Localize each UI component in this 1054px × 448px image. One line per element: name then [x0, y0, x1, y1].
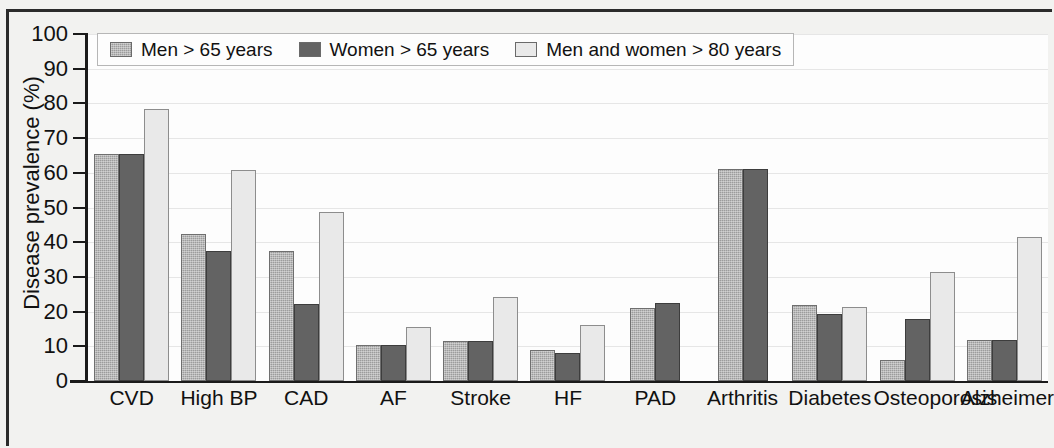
bar-group: [612, 34, 699, 381]
legend-item: Men > 65 years: [110, 40, 273, 59]
x-axis-tick-label: CVD: [88, 386, 175, 409]
y-axis-tick-label: 80: [24, 92, 68, 114]
y-axis-tick: [73, 276, 86, 278]
y-axis-tick-label: 60: [24, 162, 68, 184]
x-axis-tick-label: AF: [350, 386, 437, 409]
x-axis-tick-label: HF: [524, 386, 611, 409]
bar-group: [88, 34, 175, 381]
bar: [743, 169, 768, 381]
bar: [555, 353, 580, 381]
bar: [992, 340, 1017, 381]
x-axis-tick-label: High BP: [175, 386, 262, 409]
legend-label: Women > 65 years: [330, 40, 490, 59]
bar: [493, 297, 518, 381]
y-axis-tick: [73, 380, 86, 382]
legend-label: Men > 65 years: [141, 40, 273, 59]
y-axis-tick-labels: 1009080706050403020100: [18, 0, 68, 448]
bar: [319, 212, 344, 381]
y-axis-tick-label: 30: [24, 266, 68, 288]
x-axis-tick-label: CAD: [263, 386, 350, 409]
bar-group: [437, 34, 524, 381]
y-axis-tick: [73, 345, 86, 347]
bar: [905, 319, 930, 381]
x-axis-tick-label: Osteoporosis: [873, 386, 960, 409]
x-axis-tick-label: Alzheimer's: [961, 386, 1048, 409]
y-axis-tick-label: 100: [24, 23, 68, 45]
legend-item: Women > 65 years: [299, 40, 490, 59]
bar: [119, 154, 144, 381]
y-axis-tick-label: 50: [24, 197, 68, 219]
y-axis-tick-label: 20: [24, 301, 68, 323]
bar: [655, 303, 680, 381]
bar: [718, 169, 743, 381]
y-axis-tick-label: 10: [24, 335, 68, 357]
bar-group: [961, 34, 1048, 381]
y-axis-tick: [73, 102, 86, 104]
plot-area: [88, 34, 1048, 381]
legend-swatch-icon: [110, 42, 132, 57]
x-axis-tick-label: Diabetes: [786, 386, 873, 409]
y-axis-tick-label: 0: [24, 370, 68, 392]
y-axis-tick: [73, 172, 86, 174]
x-axis-tick-label: Arthritis: [699, 386, 786, 409]
bar: [967, 340, 992, 381]
y-axis-tick: [73, 68, 86, 70]
y-axis-tick-label: 70: [24, 127, 68, 149]
bar: [94, 154, 119, 381]
bar: [206, 251, 231, 381]
bar: [443, 341, 468, 381]
bar: [144, 109, 169, 381]
bar: [231, 170, 256, 381]
bar-group: [524, 34, 611, 381]
y-axis-tick-label: 90: [24, 58, 68, 80]
x-axis-tick-label: Stroke: [437, 386, 524, 409]
y-axis-tick: [73, 137, 86, 139]
bar-group: [350, 34, 437, 381]
bar: [406, 327, 431, 381]
bar-group: [873, 34, 960, 381]
y-axis-tick: [73, 33, 86, 35]
bar: [381, 345, 406, 381]
bar-group: [699, 34, 786, 381]
legend-swatch-icon: [515, 42, 537, 57]
x-axis-tick-label: PAD: [612, 386, 699, 409]
bar: [1017, 237, 1042, 381]
y-axis-tick: [73, 241, 86, 243]
y-axis-tick-label: 40: [24, 231, 68, 253]
chart-figure: Disease prevalence (%) 10090807060504030…: [0, 0, 1054, 448]
bar: [842, 307, 867, 381]
legend-label: Men and women > 80 years: [546, 40, 781, 59]
bar: [269, 251, 294, 381]
bar: [294, 304, 319, 381]
bar: [530, 350, 555, 381]
y-axis-tick: [73, 207, 86, 209]
bar-group: [786, 34, 873, 381]
bar: [930, 272, 955, 381]
bar: [792, 305, 817, 381]
bar: [880, 360, 905, 381]
x-axis-tick-labels: CVDHigh BPCADAFStrokeHFPADArthritisDiabe…: [88, 386, 1048, 420]
legend-item: Men and women > 80 years: [515, 40, 781, 59]
figure-frame-top-border: [6, 9, 1052, 12]
bar: [356, 345, 381, 381]
legend-swatch-icon: [299, 42, 321, 57]
bar: [817, 314, 842, 381]
figure-frame-left-border: [6, 9, 9, 446]
y-axis-tick: [73, 311, 86, 313]
bar: [580, 325, 605, 381]
bar-group: [263, 34, 350, 381]
chart-legend: Men > 65 yearsWomen > 65 yearsMen and wo…: [97, 33, 794, 66]
bar-group: [175, 34, 262, 381]
bar: [181, 234, 206, 381]
bar: [630, 308, 655, 381]
bar: [468, 341, 493, 381]
